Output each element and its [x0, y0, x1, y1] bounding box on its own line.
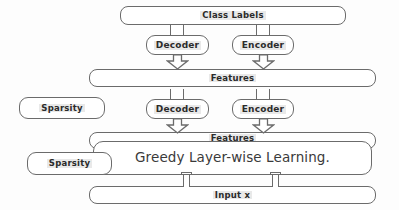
node-input-x: Input x — [89, 186, 376, 204]
node-decoder-bottom: Decoder — [146, 99, 209, 119]
node-sparsity-top-label: Sparsity — [39, 104, 84, 113]
connector-greedy-to-input-left-cap — [181, 172, 192, 175]
connector-greedy-to-input-left — [183, 174, 190, 187]
connector-greedy-to-input-right — [272, 174, 279, 187]
node-sparsity-bottom: Sparsity — [27, 152, 112, 175]
node-features-top: Features — [89, 69, 376, 87]
node-greedy-layerwise-learning: Greedy Layer-wise Learning. — [93, 141, 372, 175]
architecture-diagram: Class Labels Decoder Encoder Features Sp… — [0, 0, 399, 210]
node-features-top-label: Features — [209, 74, 257, 83]
node-sparsity-bottom-label: Sparsity — [47, 159, 92, 168]
node-encoder-bottom: Encoder — [232, 99, 294, 119]
node-decoder-bottom-label: Decoder — [154, 105, 201, 114]
connector-greedy-to-input-right-cap — [270, 172, 281, 175]
node-encoder-top-label: Encoder — [240, 41, 286, 50]
arrow-encoder-top-to-features-top — [252, 54, 275, 70]
node-class-labels: Class Labels — [120, 6, 346, 25]
node-decoder-top: Decoder — [146, 35, 209, 55]
arrow-decoder-bottom-to-features-bottom — [166, 118, 189, 134]
node-sparsity-top: Sparsity — [19, 97, 105, 119]
arrow-decoder-top-to-features-top — [166, 54, 189, 70]
node-decoder-top-label: Decoder — [154, 41, 201, 50]
arrow-encoder-bottom-to-features-bottom — [252, 118, 275, 134]
node-encoder-bottom-label: Encoder — [240, 105, 286, 114]
node-encoder-top: Encoder — [232, 35, 294, 55]
node-greedy-layerwise-learning-label: Greedy Layer-wise Learning. — [133, 151, 332, 165]
node-class-labels-label: Class Labels — [200, 11, 265, 20]
node-input-x-label: Input x — [213, 191, 252, 200]
